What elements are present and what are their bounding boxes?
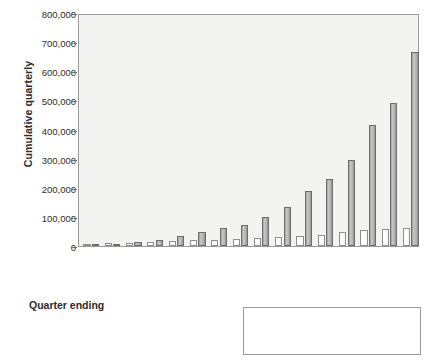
bar-printed bbox=[339, 232, 346, 246]
bar-group bbox=[100, 15, 121, 246]
y-tick-label: 300,000 bbox=[14, 154, 76, 165]
bar-printed bbox=[233, 239, 240, 246]
y-tick-mark bbox=[71, 14, 77, 15]
bar-group bbox=[164, 15, 185, 246]
bar-printed bbox=[382, 229, 389, 246]
y-tick-mark bbox=[71, 160, 77, 161]
chart-legend bbox=[243, 307, 421, 355]
bar-electronic bbox=[284, 207, 291, 246]
y-axis-ticks: 800,000700,000600,000500,000400,000300,0… bbox=[0, 0, 76, 262]
y-tick-mark bbox=[71, 72, 77, 73]
y-tick-label: 100,000 bbox=[14, 212, 76, 223]
bar-electronic bbox=[348, 160, 355, 246]
bars-layer bbox=[79, 15, 418, 246]
bar-printed bbox=[403, 228, 410, 246]
bar-printed bbox=[105, 243, 112, 246]
bar-electronic bbox=[177, 236, 184, 246]
bar-electronic bbox=[369, 125, 376, 246]
bar-printed bbox=[318, 235, 325, 246]
bar-electronic bbox=[220, 228, 227, 246]
bar-electronic bbox=[262, 217, 269, 246]
bar-group bbox=[186, 15, 207, 246]
bar-group bbox=[356, 15, 377, 246]
plot-area bbox=[78, 14, 419, 247]
y-tick-mark bbox=[71, 101, 77, 102]
bar-printed bbox=[190, 240, 197, 246]
bar-group bbox=[228, 15, 249, 246]
bar-printed bbox=[275, 237, 282, 246]
bar-electronic bbox=[92, 244, 99, 246]
bar-printed bbox=[83, 244, 90, 246]
bar-group bbox=[313, 15, 334, 246]
x-axis-ticks bbox=[78, 247, 419, 253]
y-tick-mark bbox=[71, 131, 77, 132]
bar-group bbox=[143, 15, 164, 246]
bar-electronic bbox=[411, 52, 418, 246]
bar-group bbox=[335, 15, 356, 246]
bar-group bbox=[250, 15, 271, 246]
bar-group bbox=[292, 15, 313, 246]
bar-group bbox=[377, 15, 398, 246]
bar-printed bbox=[211, 240, 218, 246]
y-tick-label: 400,000 bbox=[14, 125, 76, 136]
bar-electronic bbox=[390, 103, 397, 246]
bar-printed bbox=[147, 242, 154, 246]
bar-group bbox=[271, 15, 292, 246]
bar-printed bbox=[169, 241, 176, 246]
y-tick-label: 500,000 bbox=[14, 96, 76, 107]
bar-electronic bbox=[156, 240, 163, 246]
bar-printed bbox=[296, 236, 303, 246]
y-tick-label: 700,000 bbox=[14, 38, 76, 49]
y-tick-mark bbox=[71, 189, 77, 190]
bar-printed bbox=[254, 238, 261, 246]
bar-printed bbox=[126, 243, 133, 246]
bar-group bbox=[79, 15, 100, 246]
bar-group bbox=[207, 15, 228, 246]
y-tick-mark bbox=[71, 43, 77, 44]
y-tick-label: 600,000 bbox=[14, 67, 76, 78]
bar-electronic bbox=[134, 242, 141, 246]
bar-electronic bbox=[113, 244, 120, 246]
x-axis-title: Quarter ending bbox=[29, 299, 104, 311]
bar-chart: Cumulative quarterly 800,000700,000600,0… bbox=[0, 0, 429, 364]
y-tick-label: 200,000 bbox=[14, 183, 76, 194]
bar-group bbox=[399, 15, 420, 246]
bar-group bbox=[122, 15, 143, 246]
y-tick-mark bbox=[71, 218, 77, 219]
y-tick-label: 0 bbox=[14, 242, 76, 253]
bar-electronic bbox=[326, 179, 333, 246]
bar-electronic bbox=[305, 191, 312, 246]
y-tick-label: 800,000 bbox=[14, 9, 76, 20]
bar-electronic bbox=[241, 225, 248, 246]
bar-electronic bbox=[198, 232, 205, 246]
y-tick-mark bbox=[71, 247, 77, 248]
bar-printed bbox=[360, 230, 367, 246]
